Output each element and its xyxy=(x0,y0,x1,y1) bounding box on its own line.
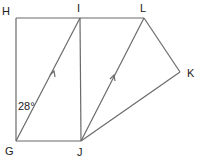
point-label-G: G xyxy=(5,145,14,157)
segment-JL xyxy=(81,18,144,141)
segments xyxy=(16,18,180,141)
angle-label: 28° xyxy=(18,100,35,112)
segment-KJ xyxy=(81,72,180,141)
parallel-marks xyxy=(50,71,115,81)
parallel-arrow-icon xyxy=(50,71,55,77)
point-label-L: L xyxy=(140,2,146,14)
geometry-diagram: H I L K G J 28° xyxy=(0,0,202,159)
labels: H I L K G J 28° xyxy=(2,2,195,158)
point-label-H: H xyxy=(2,5,10,17)
segment-IJ xyxy=(80,18,81,141)
segment-LK xyxy=(144,18,180,72)
point-label-I: I xyxy=(77,2,80,14)
point-label-J: J xyxy=(77,146,83,158)
point-label-K: K xyxy=(187,67,195,79)
segment-GI xyxy=(16,18,80,141)
